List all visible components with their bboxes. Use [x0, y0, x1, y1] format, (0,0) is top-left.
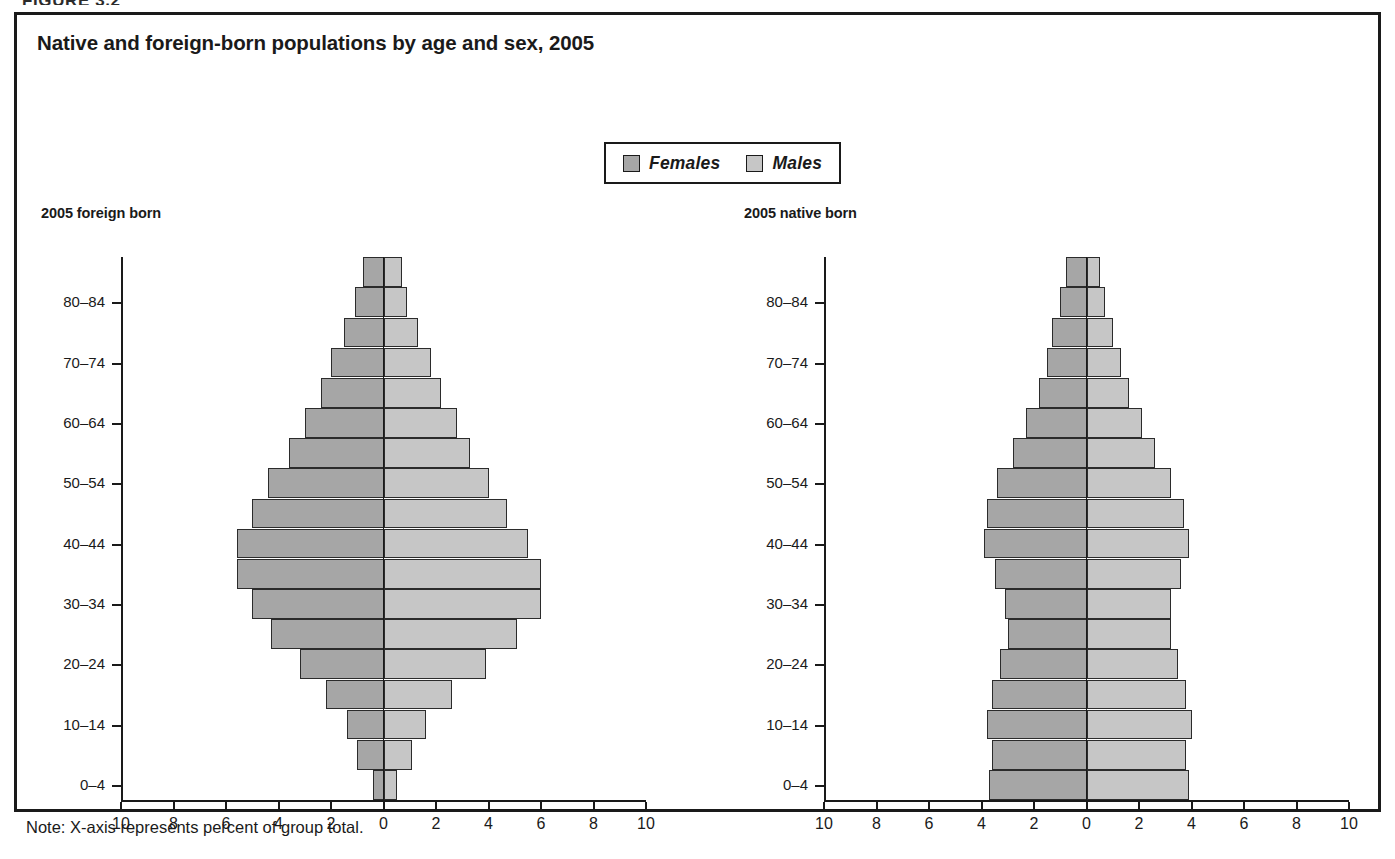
- pyramid-bar-row: [37, 318, 657, 348]
- x-axis-tick: [435, 802, 437, 811]
- bar-males: [384, 589, 542, 619]
- y-axis-tick: [112, 785, 122, 787]
- bar-females: [355, 287, 384, 317]
- y-axis-tick-label: 40–44: [37, 535, 105, 552]
- y-axis-tick: [815, 544, 825, 546]
- pyramid-bar-row: [37, 408, 657, 438]
- x-axis-tick-label: 8: [579, 815, 609, 833]
- pyramid-bar-row: [740, 499, 1360, 529]
- pyramid-bar-row: [37, 257, 657, 287]
- legend-swatch-females-icon: [623, 155, 640, 172]
- pyramid-bar-row: [740, 378, 1360, 408]
- x-axis-tick: [928, 802, 930, 811]
- y-axis-tick-label: 0–4: [37, 776, 105, 793]
- bar-females: [1000, 649, 1087, 679]
- x-axis-tick: [383, 802, 385, 811]
- pyramid-bar-row: [37, 287, 657, 317]
- pyramid-bar-row: [37, 559, 657, 589]
- x-axis-tick-label: 2: [421, 815, 451, 833]
- bar-females: [271, 619, 384, 649]
- y-axis-line: [824, 257, 826, 800]
- bar-males: [1087, 499, 1184, 529]
- pyramid-bar-row: [740, 257, 1360, 287]
- y-axis-tick: [112, 604, 122, 606]
- bar-males: [384, 468, 489, 498]
- pyramid-bar-row: [37, 378, 657, 408]
- bar-females: [1008, 619, 1087, 649]
- x-axis-tick-label: 8: [1282, 815, 1312, 833]
- y-axis-tick-label: 10–14: [740, 716, 808, 733]
- y-axis-tick: [815, 785, 825, 787]
- legend-item-females: Females: [623, 153, 720, 174]
- bar-males: [384, 529, 528, 559]
- x-axis-tick: [488, 802, 490, 811]
- y-axis-tick: [815, 725, 825, 727]
- x-axis-tick: [225, 802, 227, 811]
- pyramid-bar-row: [740, 438, 1360, 468]
- bar-males: [1087, 680, 1187, 710]
- bar-males: [1087, 378, 1129, 408]
- x-axis-tick-label: 6: [1229, 815, 1259, 833]
- pyramid-bar-row: [740, 710, 1360, 740]
- bar-males: [1087, 408, 1142, 438]
- bar-females: [984, 529, 1086, 559]
- bar-females: [997, 468, 1086, 498]
- y-axis-tick: [112, 363, 122, 365]
- bar-males: [1087, 529, 1189, 559]
- x-axis-tick: [278, 802, 280, 811]
- y-axis-tick-label: 30–34: [37, 595, 105, 612]
- bar-males: [1087, 710, 1192, 740]
- x-axis-tick-label: 2: [1019, 815, 1049, 833]
- bar-males: [1087, 740, 1187, 770]
- figure-note: Note: X-axis represents percent of group…: [26, 818, 364, 837]
- x-axis-tick: [645, 802, 647, 811]
- bar-males: [384, 378, 442, 408]
- bar-females: [1066, 257, 1087, 287]
- x-axis-tick: [981, 802, 983, 811]
- x-axis-tick: [1138, 802, 1140, 811]
- x-axis-tick: [593, 802, 595, 811]
- bar-females: [237, 529, 384, 559]
- y-axis-tick-label: 70–74: [37, 354, 105, 371]
- y-axis-tick-label: 30–34: [740, 595, 808, 612]
- pyramid-chart-native-born: 0–410–1420–2430–3440–4450–5460–6470–7480…: [740, 255, 1360, 815]
- pyramid-bar-row: [37, 770, 657, 800]
- y-axis-tick: [112, 302, 122, 304]
- x-axis-tick: [876, 802, 878, 811]
- x-axis-tick-label: 0: [1072, 815, 1102, 833]
- bar-males: [1087, 438, 1155, 468]
- figure-title: Native and foreign-born populations by a…: [37, 31, 594, 55]
- bar-females: [1013, 438, 1087, 468]
- bar-males: [384, 499, 507, 529]
- bar-females: [252, 499, 383, 529]
- x-axis-tick: [823, 802, 825, 811]
- y-axis-tick: [112, 725, 122, 727]
- bar-females: [289, 438, 384, 468]
- y-axis-tick-label: 80–84: [740, 293, 808, 310]
- y-axis-tick-label: 20–24: [740, 655, 808, 672]
- x-axis-tick: [120, 802, 122, 811]
- bar-females: [331, 348, 384, 378]
- y-axis-tick: [815, 302, 825, 304]
- y-axis-tick-label: 50–54: [37, 474, 105, 491]
- pyramid-bar-row: [740, 287, 1360, 317]
- bar-females: [326, 680, 384, 710]
- pyramid-bar-row: [740, 318, 1360, 348]
- bar-males: [1087, 287, 1105, 317]
- bar-females: [1005, 589, 1086, 619]
- bar-males: [1087, 589, 1171, 619]
- bar-females: [237, 559, 384, 589]
- y-axis-tick: [112, 423, 122, 425]
- bar-males: [1087, 348, 1121, 378]
- bar-males: [384, 680, 452, 710]
- y-axis-tick: [112, 483, 122, 485]
- x-axis-tick: [1086, 802, 1088, 811]
- x-axis-tick: [1243, 802, 1245, 811]
- bar-females: [321, 378, 384, 408]
- legend-item-males: Males: [746, 153, 822, 174]
- x-axis-tick-label: 4: [967, 815, 997, 833]
- y-axis-line: [121, 257, 123, 800]
- pyramid-bar-row: [740, 559, 1360, 589]
- pyramid-chart-foreign-born: 0–410–1420–2430–3440–4450–5460–6470–7480…: [37, 255, 657, 815]
- bar-females: [252, 589, 383, 619]
